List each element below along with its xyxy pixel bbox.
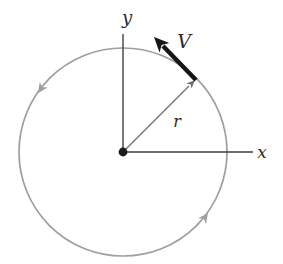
x-axis-label: x — [257, 142, 267, 162]
center-point-dot — [119, 148, 128, 157]
y-axis-label: y — [121, 7, 133, 28]
radius-label: r — [173, 112, 182, 131]
velocity-label: V — [177, 30, 193, 52]
figure-canvas: y x r V — [0, 0, 283, 264]
circular-motion-diagram: y x r V — [0, 0, 283, 264]
